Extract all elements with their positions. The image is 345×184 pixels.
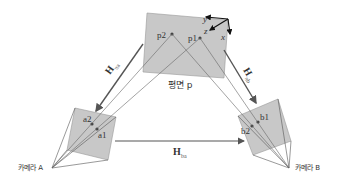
svg-text:πb: πb: [244, 76, 252, 84]
camera-b-label: 카메라 B: [295, 163, 320, 172]
label-x: x: [220, 32, 225, 42]
label-a1: a1: [98, 130, 107, 140]
homography-diagram: p2 p1 y z x 평면 p a2 a1 카메라 A b1 b2 카메라 B…: [0, 0, 345, 184]
label-b1: b1: [260, 112, 269, 122]
plane-p: [143, 13, 230, 78]
label-z: z: [203, 26, 208, 36]
label-b2: b2: [241, 126, 250, 136]
label-y: y: [202, 14, 207, 24]
label-p1: p1: [188, 33, 197, 43]
arrow-h-pi-a: [96, 44, 143, 111]
svg-text:H: H: [173, 146, 181, 157]
plane-label: 평면 p: [168, 80, 193, 90]
label-h-ba: H ba: [173, 146, 187, 159]
label-a2: a2: [83, 114, 92, 124]
label-h-pi-a: H πa: [103, 58, 122, 77]
arrow-h-pi-b: [224, 50, 256, 103]
label-p2: p2: [157, 30, 166, 40]
camera-a-label: 카메라 A: [18, 163, 43, 172]
svg-text:ba: ba: [181, 153, 187, 159]
